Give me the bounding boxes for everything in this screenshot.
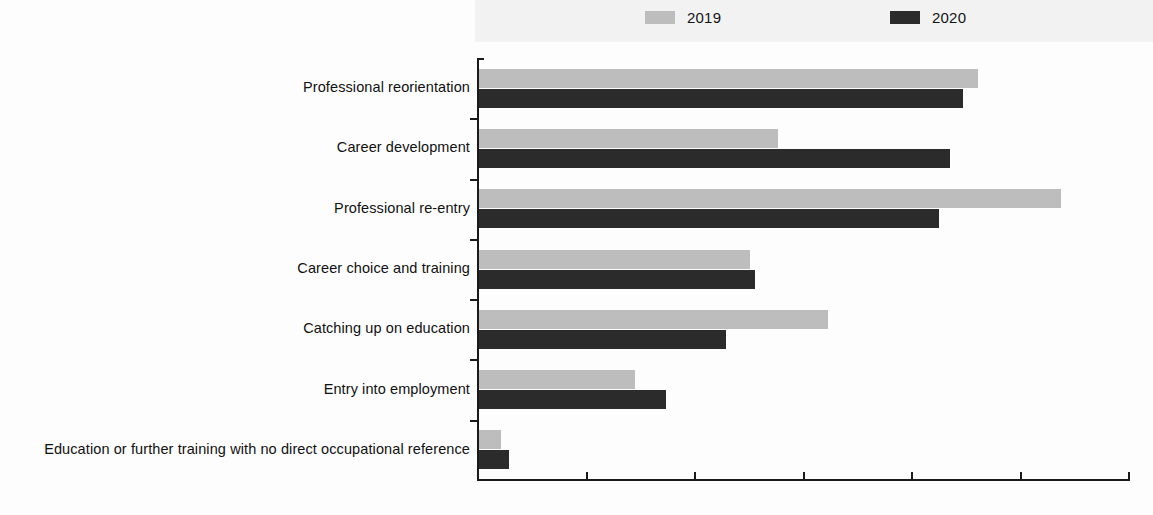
chart-page: 20192020 Professional reorientationCaree… [0,0,1153,515]
bar-2019-5 [479,370,635,389]
category-label-5: Entry into employment [324,381,470,397]
category-label-3: Career choice and training [297,260,470,276]
bar-2019-0 [479,69,978,88]
bar-2019-6 [479,430,501,449]
bar-2020-1 [479,149,950,168]
legend-label-2019: 2019 [687,9,721,26]
category-label-6: Education or further training with no di… [44,441,470,457]
category-label-4: Catching up on education [303,320,470,336]
bar-2019-4 [479,310,828,329]
y-axis-group-notch [470,239,477,241]
x-axis-tick-0 [477,472,479,481]
legend-entry-2020: 2020 [890,9,966,26]
bar-2019-2 [479,189,1061,208]
bar-2020-5 [479,390,666,409]
legend-swatch-2020 [890,11,920,24]
legend-swatch-2019 [645,11,675,24]
x-axis-tick-5 [586,472,588,481]
bar-2020-6 [479,450,509,469]
bar-2020-4 [479,330,726,349]
y-axis-group-notch [470,299,477,301]
legend-label-2020: 2020 [932,9,966,26]
bar-2019-3 [479,250,750,269]
bar-2019-1 [479,129,778,148]
y-axis-group-notch [470,420,477,422]
category-axis-labels: Professional reorientationCareer develop… [0,58,470,480]
bar-2020-2 [479,209,939,228]
x-axis-tick-25 [1020,472,1022,481]
category-label-0: Professional reorientation [303,79,470,95]
x-axis-tick-30 [1128,472,1130,481]
chart-legend: 20192020 [475,0,1153,42]
y-axis-top-cap [477,58,484,60]
bar-2020-3 [479,270,755,289]
legend-entry-2019: 2019 [645,9,721,26]
bar-2020-0 [479,89,963,108]
y-axis-group-notch [470,359,477,361]
plot-area: 051015202530 [477,58,1129,480]
x-axis-tick-10 [694,472,696,481]
y-axis-group-notch [470,118,477,120]
x-axis-tick-20 [911,472,913,481]
category-label-1: Career development [337,139,470,155]
x-axis-tick-15 [803,472,805,481]
category-label-2: Professional re-entry [334,200,470,216]
y-axis-group-notch [470,179,477,181]
